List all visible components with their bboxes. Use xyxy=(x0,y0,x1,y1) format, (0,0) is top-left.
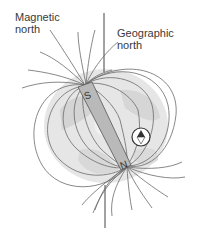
magnetic-north-label: Magnetic north xyxy=(15,11,60,35)
earth-magnetic-field-diagram: S N Magnetic north Geographic north xyxy=(0,0,198,238)
magnetic-north-line2: north xyxy=(15,23,60,35)
geographic-north-line1: Geographic xyxy=(117,27,174,39)
geographic-north-line2: north xyxy=(117,39,174,51)
geographic-north-label: Geographic north xyxy=(117,27,174,51)
compass-icon xyxy=(132,128,150,146)
magnetic-north-line1: Magnetic xyxy=(15,11,60,23)
